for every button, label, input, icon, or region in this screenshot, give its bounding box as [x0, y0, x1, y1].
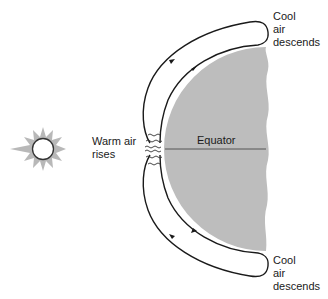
label-line: air — [273, 267, 320, 280]
label-line: descends — [273, 36, 320, 49]
sun-icon — [10, 127, 66, 171]
label-line: Warm air — [92, 135, 136, 148]
equator-label: Equator — [197, 134, 236, 147]
label-line: Cool — [273, 254, 320, 267]
warm-air-rises-label: Warm air rises — [92, 135, 136, 161]
cool-air-descends-bottom-label: Cool air descends — [273, 254, 320, 293]
label-line: descends — [273, 280, 320, 293]
label-line: air — [273, 23, 320, 36]
label-line: Cool — [273, 10, 320, 23]
label-line: rises — [92, 148, 136, 161]
cool-air-descends-top-label: Cool air descends — [273, 10, 320, 49]
